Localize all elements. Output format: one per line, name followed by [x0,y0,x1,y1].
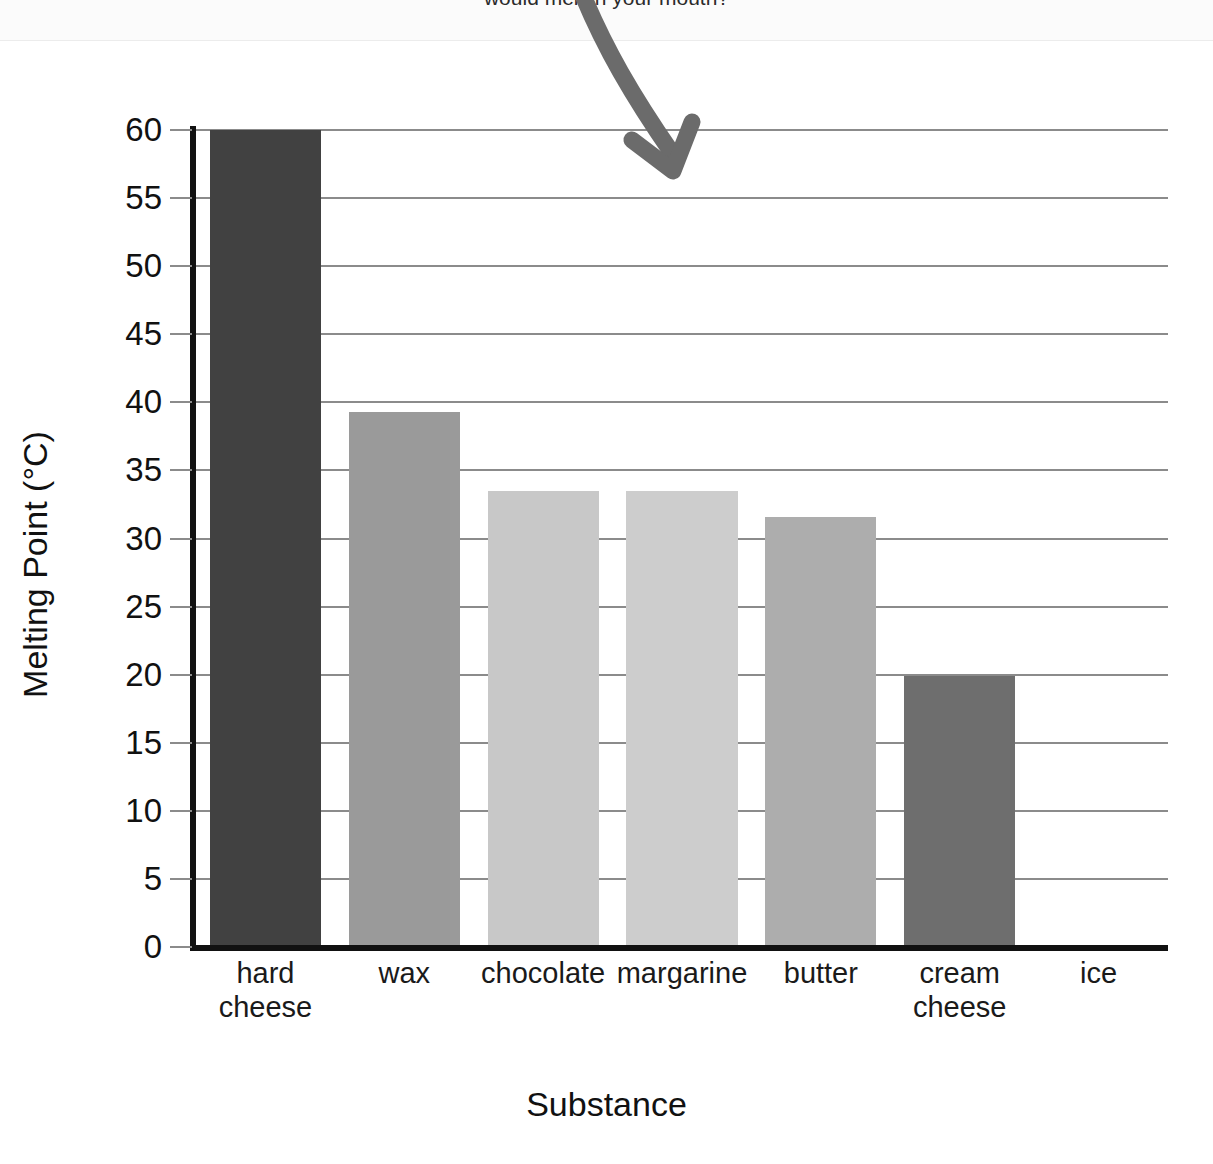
gridline [196,333,1168,335]
x-axis-line [190,945,1168,951]
y-tick-mark [170,810,192,812]
x-tick-label-line: wax [335,956,474,990]
y-tick-label: 30 [0,522,162,555]
bar-butter[interactable] [765,517,876,947]
x-tick-label-line: ice [1029,956,1168,990]
x-tick-label-line: margarine [613,956,752,990]
y-tick-mark [170,469,192,471]
y-tick-mark [170,538,192,540]
x-tick-label-line: cheese [890,990,1029,1024]
x-tick-label-margarine: margarine [613,956,752,990]
y-tick-label: 10 [0,794,162,827]
y-tick-mark [170,401,192,403]
y-tick-label: 0 [0,930,162,963]
y-tick-label: 35 [0,453,162,486]
y-tick-label: 5 [0,862,162,895]
y-tick-mark [170,878,192,880]
gridline [196,129,1168,131]
y-axis-title: Melting Point (°C) [16,285,55,845]
y-tick-mark [170,129,192,131]
gridline [196,265,1168,267]
x-tick-label-cream-cheese: creamcheese [890,956,1029,1024]
y-tick-label: 40 [0,385,162,418]
y-tick-label: 55 [0,181,162,214]
y-tick-label: 50 [0,249,162,282]
y-tick-label: 45 [0,317,162,350]
bar-cream-cheese[interactable] [904,676,1015,947]
x-tick-label-ice: ice [1029,956,1168,990]
gridline [196,469,1168,471]
x-tick-label-chocolate: chocolate [474,956,613,990]
melting-point-bar-chart: Melting Point (°C) Substance 05101520253… [0,0,1213,1164]
x-tick-label-line: hard [196,956,335,990]
bar-chocolate[interactable] [488,491,599,947]
y-tick-mark [170,674,192,676]
y-tick-label: 20 [0,658,162,691]
gridline [196,197,1168,199]
x-axis-title: Substance [0,1085,1213,1124]
y-tick-mark [170,742,192,744]
x-tick-label-hard-cheese: hardcheese [196,956,335,1024]
plot-area [196,130,1168,947]
bar-wax[interactable] [349,412,460,947]
x-tick-label-line: cheese [196,990,335,1024]
y-tick-mark [170,606,192,608]
y-tick-mark [170,197,192,199]
gridline [196,401,1168,403]
y-tick-mark [170,265,192,267]
y-tick-label: 15 [0,726,162,759]
x-tick-label-line: butter [751,956,890,990]
y-tick-label: 25 [0,590,162,623]
y-tick-mark [170,946,192,948]
y-tick-mark [170,333,192,335]
x-tick-label-line: chocolate [474,956,613,990]
x-tick-label-butter: butter [751,956,890,990]
bar-margarine[interactable] [626,491,737,947]
x-tick-label-wax: wax [335,956,474,990]
bar-hard-cheese[interactable] [210,130,321,947]
y-tick-label: 60 [0,113,162,146]
x-tick-label-line: cream [890,956,1029,990]
